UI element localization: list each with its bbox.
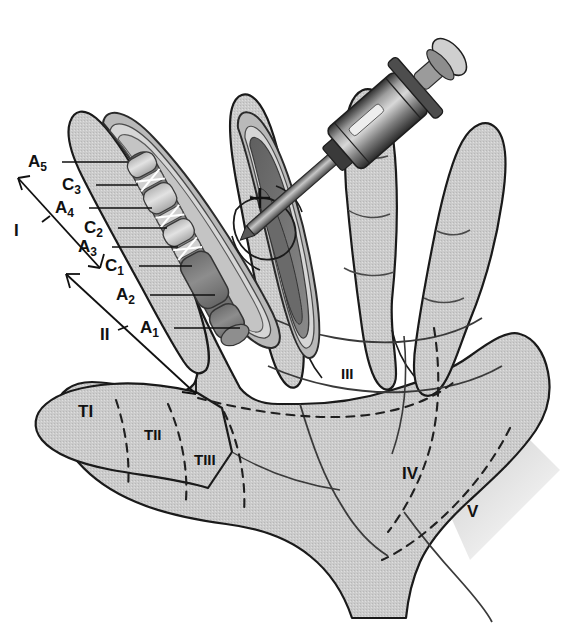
label-a5-subscript: 5 (40, 160, 47, 174)
label-zone-1: I (14, 221, 19, 240)
label-zone-5: V (467, 502, 479, 521)
label-zone-3: III (341, 365, 354, 382)
label-a3-subscript: 3 (90, 245, 97, 259)
label-a2-base: A (116, 285, 128, 304)
label-zone-4: IV (402, 464, 419, 483)
label-a2-subscript: 2 (128, 293, 135, 307)
label-a4-base: A (55, 198, 67, 217)
label-c2-base: C (84, 218, 96, 237)
label-a5-base: A (28, 152, 40, 171)
label-c2-subscript: 2 (96, 226, 103, 240)
hand-illustration: A5C3A4C2A3C1A2A1 IIIIIIIVVTITIITIII (0, 0, 572, 626)
label-a3-base: A (78, 237, 90, 256)
label-a1-base: A (140, 318, 152, 337)
label-zone-t2: TII (144, 426, 162, 443)
label-zone-t1: TI (78, 402, 93, 421)
label-a1-subscript: 1 (152, 326, 159, 340)
label-c3-base: C (62, 175, 74, 194)
label-c1-subscript: 1 (117, 264, 124, 278)
label-zone-t3: TIII (194, 451, 216, 468)
label-c1-base: C (105, 256, 117, 275)
label-a4-subscript: 4 (67, 206, 74, 220)
anatomical-figure: A5C3A4C2A3C1A2A1 IIIIIIIVVTITIITIII (0, 0, 572, 626)
label-c3-subscript: 3 (74, 183, 81, 197)
label-zone-2: II (100, 325, 109, 344)
